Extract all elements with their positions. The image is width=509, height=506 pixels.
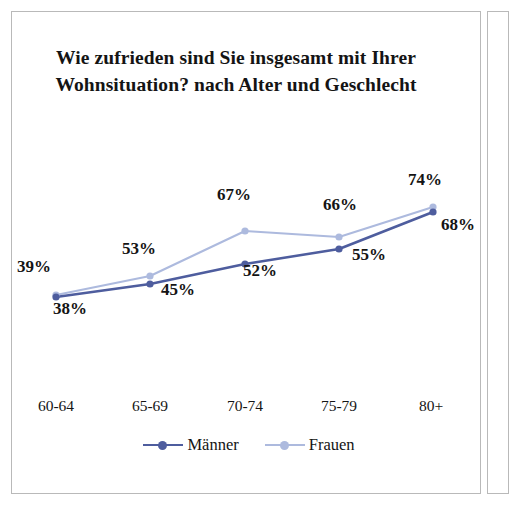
legend-marker-frauen-icon (265, 439, 305, 451)
data-label-maenner-80plus: 68% (441, 216, 475, 233)
data-point-maenner-75-79 (335, 245, 342, 252)
legend-item-maenner[interactable]: Männer (143, 437, 238, 454)
legend-item-frauen[interactable]: Frauen (265, 437, 355, 454)
data-label-frauen-70-74: 67% (217, 186, 251, 203)
legend-marker-maenner-icon (143, 439, 183, 451)
data-point-frauen-65-69 (146, 272, 153, 279)
x-axis-tick-60-64: 60-64 (38, 398, 74, 414)
chart-legend: Männer Frauen (0, 437, 498, 454)
adjacent-page-frame (487, 11, 509, 494)
x-axis-tick-65-69: 65-69 (132, 398, 168, 414)
data-point-maenner-65-69 (146, 280, 153, 287)
data-point-maenner-80plus (429, 208, 436, 215)
x-axis-tick-80plus: 80+ (419, 398, 443, 414)
x-axis-tick-75-79: 75-79 (321, 398, 357, 414)
data-label-maenner-70-74: 52% (243, 262, 277, 279)
data-point-frauen-70-74 (241, 227, 248, 234)
data-label-maenner-60-64: 38% (53, 300, 87, 317)
data-label-maenner-75-79: 55% (352, 246, 386, 263)
data-label-frauen-80plus: 74% (408, 171, 442, 188)
plot-area (12, 12, 480, 493)
data-label-frauen-75-79: 66% (323, 196, 357, 213)
x-axis-tick-70-74: 70-74 (227, 398, 263, 414)
legend-label-frauen: Frauen (309, 437, 355, 454)
data-point-frauen-75-79 (335, 233, 342, 240)
data-label-frauen-65-69: 53% (122, 240, 156, 257)
legend-label-maenner: Männer (187, 437, 238, 454)
data-label-maenner-65-69: 45% (161, 281, 195, 298)
data-label-frauen-60-64: 39% (17, 258, 51, 275)
line-chart-svg (12, 12, 480, 493)
